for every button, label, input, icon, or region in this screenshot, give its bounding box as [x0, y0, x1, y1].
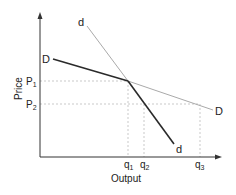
- kinked-demand-diagram: d D D d P1 P2 q1 q2 q3 Output Price: [0, 0, 236, 195]
- x-axis-title: Output: [111, 173, 141, 184]
- D-curve-lower: [128, 81, 213, 110]
- D-curve-upper: [53, 59, 128, 81]
- dark-curves: [53, 59, 174, 144]
- D-upper-label: D: [42, 53, 50, 65]
- y-axis-title: Price: [13, 77, 24, 100]
- y-axis-arrow-icon: [38, 12, 43, 19]
- d-lower-label: d: [176, 143, 182, 155]
- x-axis-arrow-icon: [215, 155, 222, 160]
- q1-label: q1: [124, 159, 134, 171]
- d-upper-label: d: [78, 16, 84, 28]
- light-curves: [87, 26, 213, 110]
- q2-label: q2: [140, 159, 150, 171]
- d-curve-upper: [87, 26, 128, 81]
- p1-label: P1: [26, 76, 37, 88]
- p2-label: P2: [26, 99, 37, 111]
- d-curve-lower: [128, 81, 174, 144]
- axes: [38, 12, 223, 160]
- q3-label: q3: [195, 159, 205, 171]
- D-lower-label: D: [215, 105, 223, 117]
